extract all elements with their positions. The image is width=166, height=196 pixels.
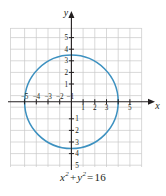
- x-axis-label: x: [154, 100, 160, 111]
- caption-equals-operator: =: [86, 171, 94, 183]
- x-tick-label-2: 2: [93, 104, 97, 112]
- y-tick-label-3: 3: [64, 57, 68, 65]
- y-axis-label: y: [63, 7, 69, 18]
- y-tick-label-2: 2: [64, 69, 68, 77]
- x-tick-label-5: 5: [128, 104, 132, 112]
- y-tick-label--2: 2: [75, 127, 79, 135]
- x-tick-label--1: −1: [66, 93, 74, 101]
- y-tick-label-4: 4: [64, 46, 68, 54]
- x-axis-arrowhead-icon: [148, 99, 155, 105]
- y-tick-label-1: 1: [64, 81, 68, 89]
- x-tick-label--3: −3: [44, 93, 52, 101]
- y-tick-label--1: 1: [75, 115, 79, 123]
- x-tick-label-3: 3: [105, 104, 109, 112]
- graph-figure: −5 −4 −3 −2 −1 1 2 3 5 5 4 3 2 1 1 2 3 4…: [0, 0, 166, 196]
- y-axis-arrowhead-icon: [68, 11, 74, 18]
- y-tick-label--3: 3: [75, 139, 79, 147]
- caption-value: 16: [95, 171, 106, 183]
- y-tick-label-5: 5: [64, 34, 68, 42]
- y-tick-label--5: 5: [75, 162, 79, 170]
- coordinate-plane-plot: −5 −4 −3 −2 −1 1 2 3 5 5 4 3 2 1 1 2 3 4…: [0, 0, 166, 196]
- x-tick-label--5: −5: [21, 93, 29, 101]
- y-tick-label--4: 4: [75, 150, 79, 158]
- x-tick-label--2: −2: [56, 93, 64, 101]
- equation-caption: x2+y2=16: [0, 170, 166, 183]
- x-tick-label--4: −4: [32, 93, 40, 101]
- x-tick-label-1: 1: [81, 104, 85, 112]
